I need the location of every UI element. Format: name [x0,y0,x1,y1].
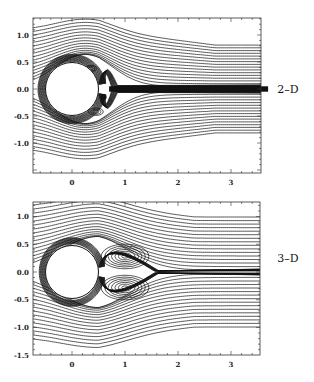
panel-3d: 01231.00.50.0-0.5-1.0-1.53–D [14,197,299,370]
y-tick-label: -0.5 [14,295,29,304]
figure: 01231.00.50.0-0.5-1.02–D01231.00.50.0-0.… [0,0,314,382]
y-tick-label: -1.0 [14,139,29,148]
y-tick-label: -1.5 [14,351,29,360]
cylinder [46,246,99,299]
x-tick-label: 3 [229,178,234,187]
y-tick-label: 0.5 [17,58,29,67]
y-tick-label: 0.5 [17,240,29,249]
x-tick-label: 2 [176,178,181,187]
x-tick-label: 1 [123,178,128,187]
panel-label: 3–D [277,252,298,265]
y-tick-label: 0.0 [17,85,29,94]
x-tick-label: 2 [176,360,181,369]
panel-label: 2–D [277,83,298,96]
panel-2d: 01231.00.50.0-0.5-1.02–D [14,18,299,187]
x-tick-label: 0 [70,178,75,187]
vortex-upper [101,244,149,269]
vortex-lower [101,275,149,300]
wake-band [109,86,268,91]
x-tick-label: 1 [123,360,128,369]
y-tick-label: 0.0 [17,268,29,277]
x-tick-label: 3 [229,360,234,369]
x-tick-label: 0 [70,360,75,369]
cylinder [46,63,99,116]
y-tick-label: -1.0 [14,323,29,332]
y-tick-label: 1.0 [17,31,29,40]
y-tick-label: -0.5 [14,112,29,121]
y-tick-label: 1.0 [17,212,29,221]
